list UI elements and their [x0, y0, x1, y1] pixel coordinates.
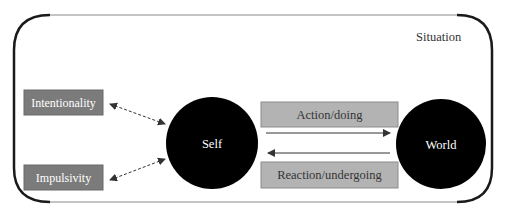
situation-diagram: Situation Intentionality Impulsivity Sel… [0, 0, 505, 215]
world-label: World [426, 138, 458, 152]
impulsivity-box: Impulsivity [24, 165, 103, 190]
reaction-box: Reaction/undergoing [261, 162, 398, 188]
reaction-label: Reaction/undergoing [277, 168, 382, 182]
impulsivity-self-arrow [110, 159, 165, 180]
self-node: Self [166, 97, 258, 189]
situation-label: Situation [416, 30, 462, 44]
world-node: World [396, 99, 486, 189]
action-label: Action/doing [297, 108, 364, 122]
intentionality-label: Intentionality [31, 96, 96, 110]
intentionality-self-arrow [110, 104, 165, 124]
impulsivity-label: Impulsivity [36, 171, 91, 185]
action-box: Action/doing [261, 102, 398, 127]
self-label: Self [202, 137, 223, 151]
intentionality-box: Intentionality [24, 90, 103, 115]
